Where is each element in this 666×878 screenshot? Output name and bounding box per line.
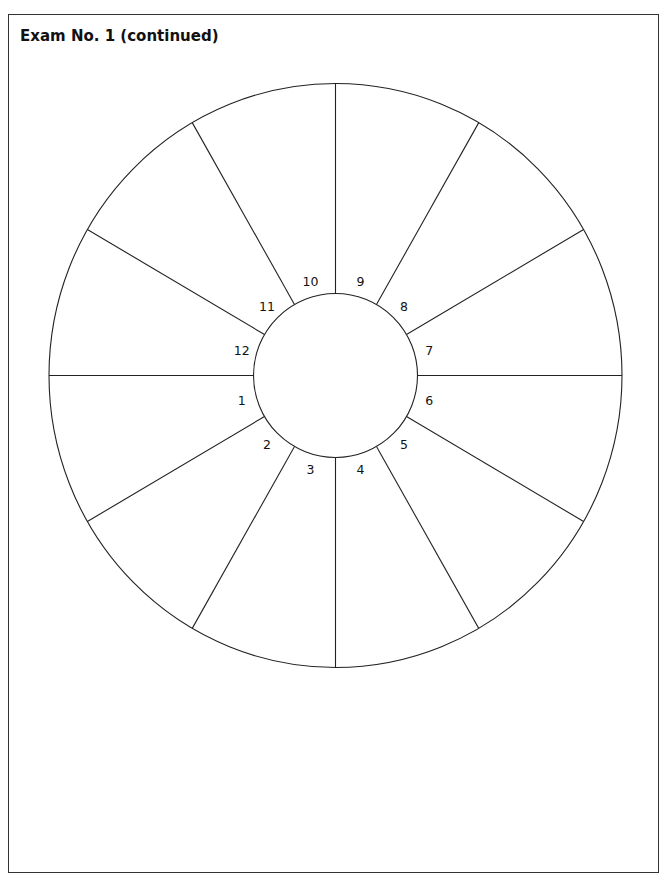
house-number-label: 4 <box>357 462 365 477</box>
spoke-line <box>87 417 264 522</box>
spoke-line <box>87 230 264 335</box>
spoke-line <box>407 417 584 522</box>
house-number-label: 2 <box>263 437 271 452</box>
spoke-line <box>192 447 294 629</box>
spoke-line <box>192 123 294 305</box>
house-number-label: 6 <box>425 393 433 408</box>
spoke-line <box>377 447 479 629</box>
house-number-label: 11 <box>259 299 275 314</box>
house-wheel-diagram: 123456789101112 <box>0 0 666 878</box>
house-number-label: 5 <box>400 437 408 452</box>
house-number-label: 9 <box>357 274 365 289</box>
house-number-label: 7 <box>425 343 433 358</box>
house-number-label: 1 <box>238 393 246 408</box>
house-number-label: 10 <box>302 274 318 289</box>
house-number-label: 3 <box>306 462 314 477</box>
house-number-label: 8 <box>400 299 408 314</box>
inner-circle <box>254 294 418 458</box>
spoke-line <box>407 230 584 335</box>
spoke-line <box>377 123 479 305</box>
house-number-label: 12 <box>234 343 250 358</box>
